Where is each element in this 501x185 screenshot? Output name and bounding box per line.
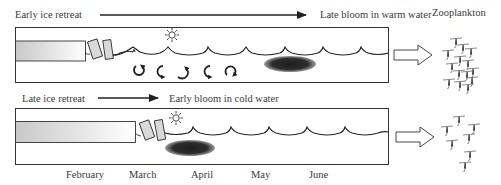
month-label: April [191, 169, 213, 180]
copepod-icon [454, 81, 466, 91]
label-late-ice-retreat: Late ice retreat [22, 93, 85, 104]
copepod-icon [450, 38, 462, 48]
copepod-icon [465, 48, 477, 58]
copepod-icon [442, 50, 454, 60]
copepod-icon [467, 68, 479, 78]
scenario-late-retreat: Late ice retreat Early bloom in cold wat… [16, 93, 481, 172]
ice-sheet [16, 122, 136, 143]
phytoplankton-bloom [264, 56, 316, 72]
copepod-icon [441, 126, 453, 136]
copepod-icon [446, 140, 458, 150]
label-early-bloom: Early bloom in cold water [169, 93, 279, 104]
month-label: May [251, 169, 271, 180]
copepod-icon [464, 151, 476, 161]
sun-icon [165, 28, 179, 42]
copepod-icon [461, 71, 473, 81]
phytoplankton-bloom [165, 140, 215, 156]
scenario-early-retreat: Early ice retreat Late bloom in warm wat… [15, 7, 486, 94]
label-early-ice-retreat: Early ice retreat [15, 9, 82, 20]
zooplankton-label: Zooplankton [432, 7, 486, 18]
hollow-arrow-icon [396, 127, 434, 147]
month-label: March [129, 169, 157, 180]
ice-sheet [16, 41, 86, 61]
copepod-icon [463, 134, 475, 144]
month-axis: February March April May June [66, 169, 329, 180]
zooplankton-dense [442, 38, 479, 94]
hollow-arrow-icon [394, 45, 432, 65]
copepod-icon [459, 162, 471, 172]
diagram-canvas: Early ice retreat Late bloom in warm wat… [0, 0, 501, 185]
copepod-icon [453, 116, 465, 126]
copepod-icon [462, 84, 474, 94]
zooplankton-sparse [441, 116, 480, 172]
sun-icon [169, 111, 183, 125]
month-label: June [309, 169, 329, 180]
label-late-bloom: Late bloom in warm water [320, 9, 432, 20]
copepod-icon [446, 63, 458, 73]
copepod-icon [443, 79, 455, 89]
month-label: February [66, 169, 105, 180]
copepod-icon [468, 124, 480, 134]
